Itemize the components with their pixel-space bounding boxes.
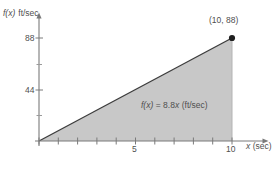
x-axis-label: x(sec) xyxy=(246,142,272,151)
y-tick-label-44: 44 xyxy=(25,86,34,95)
endpoint-coordinate-label: (10, 88) xyxy=(209,16,238,25)
x-axis-label-var: x xyxy=(246,141,250,151)
y-axis-label-function: f(x) xyxy=(3,8,15,18)
y-axis-label-units: ft/sec xyxy=(18,8,38,18)
y-tick-label-88: 88 xyxy=(25,34,34,43)
y-axis-label: f(x)ft/sec xyxy=(3,9,39,18)
endpoint-marker-dot xyxy=(229,35,235,41)
x-tick-label-10: 10 xyxy=(226,145,235,154)
x-axis-label-units: (sec) xyxy=(253,141,272,151)
equation-rhs: = 8.8 xyxy=(156,100,175,110)
equation-annotation: f(x)= 8.8x(ft/sec) xyxy=(141,101,208,110)
equation-function: f(x) xyxy=(141,100,153,110)
equation-variable: x xyxy=(175,100,179,110)
x-tick-label-5: 5 xyxy=(132,145,137,154)
chart-figure: f(x)ft/sec 88 44 5 10 x(sec) f(x)= 8.8x(… xyxy=(0,0,273,169)
equation-units: (ft/sec) xyxy=(182,100,208,110)
